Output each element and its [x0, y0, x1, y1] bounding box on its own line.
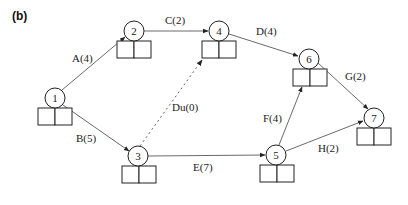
node-7: 7: [357, 108, 391, 145]
node-4-early-box: [202, 41, 219, 58]
edge-label-A: A(4): [72, 52, 93, 65]
node-2-late-box: [134, 41, 151, 58]
edge-label-C: C(2): [165, 14, 186, 27]
edge-label-G: G(2): [345, 70, 366, 83]
node-5-label: 5: [273, 149, 279, 161]
node-5: 5: [260, 145, 294, 182]
node-6-late-box: [310, 69, 327, 86]
edge-label-B: B(5): [76, 132, 97, 145]
activity-network-diagram: (b) A(4) B(5) C(2) D(4) Du(0) E(7) F(4) …: [0, 0, 408, 205]
node-1-label: 1: [52, 92, 58, 104]
node-3-label: 3: [135, 150, 141, 162]
node-4: 4: [202, 21, 236, 58]
node-7-label: 7: [371, 112, 377, 124]
node-4-late-box: [219, 41, 236, 58]
node-5-late-box: [277, 165, 294, 182]
edge-D-arrow: [229, 34, 298, 56]
node-2-early-box: [117, 41, 134, 58]
node-6: 6: [293, 49, 327, 86]
edge-label-D: D(4): [256, 25, 277, 38]
panel-label: (b): [12, 9, 27, 23]
node-6-label: 6: [306, 53, 312, 65]
node-1-early-box: [38, 108, 55, 125]
node-1-late-box: [55, 108, 72, 125]
node-4-label: 4: [216, 25, 222, 37]
edge-label-F: F(4): [263, 112, 282, 125]
node-2-label: 2: [131, 25, 137, 37]
edge-label-H: H(2): [318, 142, 339, 155]
node-3: 3: [122, 146, 156, 183]
node-6-early-box: [293, 69, 310, 86]
node-3-late-box: [139, 166, 156, 183]
node-7-late-box: [374, 128, 391, 145]
edge-B-arrow: [63, 105, 129, 151]
node-7-early-box: [357, 128, 374, 145]
node-3-early-box: [122, 166, 139, 183]
edge-F-arrow: [279, 87, 302, 145]
node-1: 1: [38, 88, 72, 125]
edge-E-arrow: [148, 155, 265, 156]
node-5-early-box: [260, 165, 277, 182]
edge-label-Du: Du(0): [172, 101, 199, 114]
edge-label-E: E(7): [193, 161, 213, 174]
